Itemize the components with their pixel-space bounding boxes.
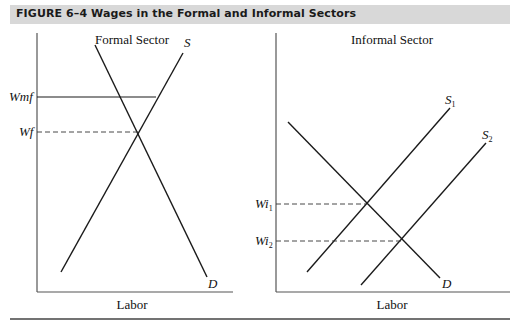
formal-x-label: Labor <box>116 297 148 312</box>
formal-wmf-label: Wmf <box>9 89 35 104</box>
informal-wi1-label: Wi1 <box>255 196 273 213</box>
formal-demand-curve <box>95 45 207 277</box>
informal-x-label: Labor <box>376 297 408 312</box>
formal-demand-label: D <box>207 276 218 291</box>
informal-s1-label: S1 <box>445 92 456 109</box>
formal-supply-label: S <box>184 35 191 50</box>
informal-demand-label: D <box>441 276 452 291</box>
informal-s2-label: S2 <box>482 127 493 144</box>
figure-canvas: Formal Sector S D Wmf Wf Labor Informal … <box>0 0 512 323</box>
formal-panel-title: Formal Sector <box>95 32 170 47</box>
informal-wi2-label: Wi2 <box>255 233 273 250</box>
informal-sector-panel: Informal Sector S1 S2 D Wi1 Wi2 Labor <box>255 32 510 312</box>
informal-supply-s1-curve <box>307 108 450 272</box>
informal-panel-title: Informal Sector <box>351 32 434 47</box>
informal-supply-s2-curve <box>361 143 486 285</box>
formal-supply-curve <box>61 53 183 272</box>
formal-sector-panel: Formal Sector S D Wmf Wf Labor <box>9 32 233 312</box>
formal-wf-label: Wf <box>19 124 36 139</box>
